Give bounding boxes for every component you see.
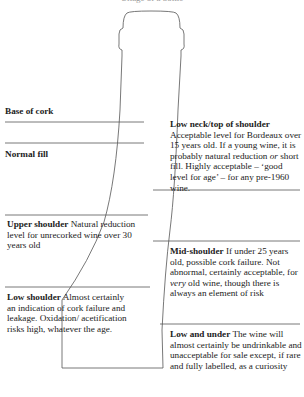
label-mid-shoulder: Mid-shoulder If under 25 years old, poss… [170, 246, 302, 299]
label-base-of-cork: Base of cork [5, 106, 53, 117]
label-upper-shoulder: Upper shoulder Natural reduction level f… [7, 219, 147, 251]
label-low-shoulder: Low shoulder Almost certainly an indicat… [7, 292, 132, 334]
label-low-neck: Low neck/top of shoulder Acceptable leve… [170, 119, 302, 193]
label-low-and-under: Low and under The wine will almost certa… [170, 329, 304, 371]
label-normal-fill: Normal fill [5, 149, 48, 160]
